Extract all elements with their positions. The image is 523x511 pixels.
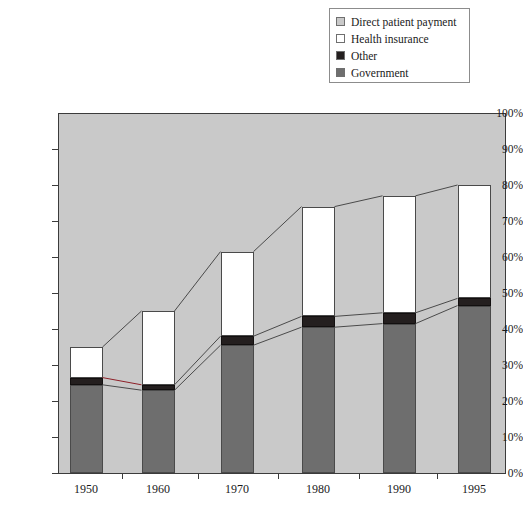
bar-segment-1950-government	[70, 385, 103, 473]
bar-segment-1960-government	[142, 390, 175, 473]
x-tick-mark-1995	[437, 473, 438, 479]
x-tick-label-1995: 1995	[444, 482, 504, 497]
legend-swatch-direct-patient-payment	[336, 17, 345, 26]
bar-segment-1960-health-insurance	[142, 311, 175, 385]
bar-segment-1970-health-insurance	[221, 252, 254, 337]
x-tick-mark-1970	[198, 473, 199, 479]
x-tick-label-1970: 1970	[207, 482, 267, 497]
y-tick-mark-50	[52, 293, 58, 294]
bar-segment-1995-government	[458, 306, 491, 473]
y-tick-label-100: 100%	[477, 107, 523, 119]
x-tick-mark-1980	[278, 473, 279, 479]
bar-segment-1960-other	[142, 385, 175, 390]
legend-label-other: Other	[351, 50, 377, 62]
x-tick-label-1960: 1960	[128, 482, 188, 497]
plot-area	[58, 113, 506, 474]
legend-swatch-government	[336, 68, 345, 77]
y-tick-mark-10	[52, 437, 58, 438]
x-tick-label-1950: 1950	[56, 482, 116, 497]
bar-segment-1990-other	[383, 313, 416, 324]
bar-segment-1980-health-insurance	[302, 207, 335, 317]
bar-segment-1990-government	[383, 324, 416, 473]
y-tick-mark-60	[52, 257, 58, 258]
y-tick-mark-0	[52, 473, 58, 474]
y-tick-mark-30	[52, 365, 58, 366]
bar-segment-1970-other	[221, 336, 254, 345]
x-tick-label-1990: 1990	[369, 482, 429, 497]
bar-segment-1995-health-insurance	[458, 185, 491, 298]
legend-item-direct-patient-payment: Direct patient payment	[336, 13, 469, 30]
bar-segment-1980-other	[302, 316, 335, 327]
legend-swatch-health-insurance	[336, 34, 345, 43]
y-tick-mark-70	[52, 221, 58, 222]
y-tick-mark-80	[52, 185, 58, 186]
y-tick-label-90: 90%	[477, 143, 523, 155]
x-tick-mark-1990	[359, 473, 360, 479]
x-tick-label-1980: 1980	[288, 482, 348, 497]
y-tick-mark-40	[52, 329, 58, 330]
legend-label-health-insurance: Health insurance	[351, 33, 429, 45]
legend-swatch-other	[336, 51, 345, 60]
y-tick-mark-20	[52, 401, 58, 402]
bar-segment-1995-other	[458, 298, 491, 305]
legend-item-government: Government	[336, 64, 469, 81]
x-axis-line	[58, 473, 506, 474]
bar-segment-1950-other	[70, 378, 103, 385]
legend: Direct patient payment Health insurance …	[329, 8, 470, 83]
bar-segment-1980-government	[302, 327, 335, 473]
legend-item-health-insurance: Health insurance	[336, 30, 469, 47]
legend-label-direct-patient-payment: Direct patient payment	[351, 16, 456, 28]
x-tick-mark-1960	[122, 473, 123, 479]
y-tick-mark-90	[52, 149, 58, 150]
legend-item-other: Other	[336, 47, 469, 64]
bar-segment-1950-health-insurance	[70, 347, 103, 378]
legend-label-government: Government	[351, 67, 408, 79]
bar-segment-1970-government	[221, 345, 254, 473]
bar-segment-1990-health-insurance	[383, 196, 416, 313]
